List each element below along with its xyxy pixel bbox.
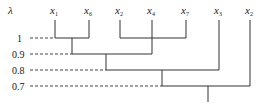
- leaf-x2-right: x2: [244, 4, 253, 17]
- leaf-x7: x7: [180, 4, 189, 17]
- leaf-x4: x4: [146, 4, 155, 17]
- level-0-7: 0.7: [12, 81, 25, 92]
- leaf-x2: x2: [114, 4, 123, 17]
- level-0-8: 0.8: [12, 65, 25, 76]
- level-0-9: 0.9: [12, 49, 25, 60]
- level-guides: [30, 38, 162, 86]
- level-1: 1: [17, 33, 22, 44]
- leaf-labels: x1 x6 x2 x4 x7 x3 x2: [49, 4, 253, 17]
- tree-branches: [55, 20, 250, 102]
- dendrogram: λ x1 x6 x2 x4 x7 x3 x2 1 0.9 0.8 0.7: [0, 0, 271, 107]
- lambda-label: λ: [7, 4, 13, 16]
- leaf-x3: x3: [213, 4, 222, 17]
- level-labels: 1 0.9 0.8 0.7: [12, 33, 25, 92]
- leaf-x1: x1: [49, 4, 58, 17]
- leaf-x6: x6: [83, 4, 92, 17]
